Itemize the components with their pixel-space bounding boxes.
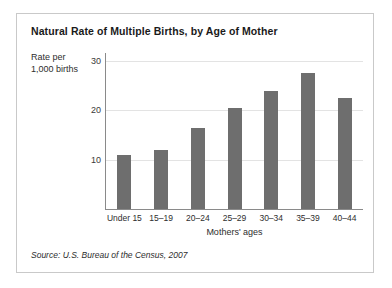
y-tick-label-20: 20 (91, 106, 101, 115)
x-tick-label: 30–34 (253, 213, 290, 223)
x-tick-label: Under 15 (106, 213, 143, 223)
bar-slot (106, 53, 143, 209)
bar-slot (326, 53, 363, 209)
bar[interactable] (117, 155, 131, 209)
bar[interactable] (228, 108, 242, 209)
x-tick-label: 15–19 (143, 213, 180, 223)
bar[interactable] (301, 73, 315, 209)
y-tick-label-30: 30 (91, 57, 101, 66)
figure-card: Natural Rate of Multiple Births, by Age … (16, 13, 374, 273)
bar-slot (253, 53, 290, 209)
bar[interactable] (154, 150, 168, 209)
bar-slot (179, 53, 216, 209)
source-note: Source: U.S. Bureau of the Census, 2007 (31, 250, 187, 260)
bar-series (106, 53, 363, 209)
x-axis-tick-labels: Under 1515–1920–2425–2930–3435–3940–44 (106, 213, 363, 223)
bar-slot (143, 53, 180, 209)
bar[interactable] (191, 128, 205, 209)
x-axis-line (105, 209, 363, 210)
y-tick-label-10: 10 (91, 155, 101, 164)
x-tick-label: 20–24 (179, 213, 216, 223)
chart-title: Natural Rate of Multiple Births, by Age … (31, 25, 278, 37)
x-tick-label: 25–29 (216, 213, 253, 223)
bar[interactable] (264, 91, 278, 209)
plot-area: 302010 (105, 53, 363, 210)
x-tick-label: 40–44 (326, 213, 363, 223)
x-tick-label: 35–39 (290, 213, 327, 223)
bar-slot (216, 53, 253, 209)
bar[interactable] (338, 98, 352, 209)
x-axis-title: Mothers' ages (106, 227, 363, 237)
bar-slot (290, 53, 327, 209)
